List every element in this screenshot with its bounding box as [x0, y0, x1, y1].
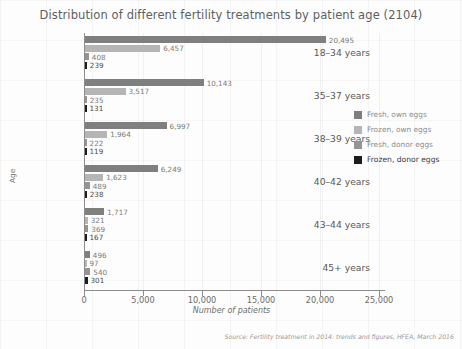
- legend-item[interactable]: Fresh, own eggs: [354, 108, 458, 121]
- legend-swatch: [354, 126, 362, 134]
- bar-row: 239: [84, 62, 379, 69]
- legend-swatch: [354, 141, 362, 149]
- bar-value-label: 238: [87, 190, 104, 199]
- bar-row: 167: [84, 234, 379, 241]
- bar-value-label: 131: [87, 104, 104, 113]
- bar[interactable]: [84, 36, 326, 43]
- category-label: 43–44 years: [314, 219, 370, 230]
- x-tick-label: 25,000: [365, 295, 394, 305]
- source-note: Source: Fertility treatment in 2014: tre…: [225, 333, 454, 340]
- x-tick-label: 20,000: [306, 295, 335, 305]
- legend-label: Fresh, own eggs: [367, 110, 427, 119]
- bar[interactable]: [84, 45, 160, 52]
- x-axis-line: [84, 290, 385, 291]
- x-tick-label: 10,000: [188, 295, 217, 305]
- bar-row: 131: [84, 105, 379, 112]
- bar-value-label: 1,717: [104, 207, 128, 216]
- bar-value-label: 3,517: [126, 87, 150, 96]
- bar-row: 6,249: [84, 165, 379, 172]
- legend-item[interactable]: Frozen, own eggs: [354, 123, 458, 136]
- legend-label: Frozen, own eggs: [367, 125, 431, 134]
- bar-value-label: 6,249: [158, 164, 182, 173]
- bar-row: 238: [84, 191, 379, 198]
- bar[interactable]: [84, 122, 167, 129]
- bar-row: 301: [84, 277, 379, 284]
- legend-item[interactable]: Fresh, donor eggs: [354, 138, 458, 151]
- x-tick-label: 15,000: [247, 295, 276, 305]
- x-axis-title: Number of patients: [84, 306, 379, 315]
- chart-page: Distribution of different fertility trea…: [0, 0, 462, 349]
- legend-label: Frozen, donor eggs: [367, 155, 439, 164]
- category-label: 35–37 years: [314, 90, 370, 101]
- plot-area: 20,4956,45740823910,1433,5172351316,9971…: [84, 33, 379, 291]
- bar-value-label: 1,964: [107, 130, 131, 139]
- bar-value-label: 6,457: [160, 44, 184, 53]
- bar-row: 496: [84, 251, 379, 258]
- legend-swatch: [354, 111, 362, 119]
- bar-row: 20,495: [84, 36, 379, 43]
- bar[interactable]: [84, 165, 158, 172]
- bar[interactable]: [84, 88, 126, 95]
- bar-row: 10,143: [84, 79, 379, 86]
- bar[interactable]: [84, 79, 204, 86]
- bar-value-label: 20,495: [326, 35, 354, 44]
- y-axis-title: Age: [8, 169, 17, 183]
- bar-value-label: 239: [87, 61, 104, 70]
- category-label: 40–42 years: [314, 176, 370, 187]
- bar-value-label: 119: [87, 147, 104, 156]
- bar-row: 119: [84, 148, 379, 155]
- legend-item[interactable]: Frozen, donor eggs: [354, 153, 458, 166]
- bar[interactable]: [84, 131, 107, 138]
- x-tick-label: 0: [81, 295, 86, 305]
- category-label: 45+ years: [322, 262, 370, 273]
- bar-value-label: 301: [88, 276, 105, 285]
- category-label: 18–34 years: [314, 47, 370, 58]
- bar[interactable]: [84, 208, 104, 215]
- bar-value-label: 6,997: [167, 121, 191, 130]
- y-axis-line: [84, 33, 85, 291]
- bar[interactable]: [84, 174, 103, 181]
- legend: Fresh, own eggsFrozen, own eggsFresh, do…: [354, 108, 458, 168]
- bar-value-label: 167: [87, 233, 104, 242]
- bar-row: 6,997: [84, 122, 379, 129]
- x-tick-label: 5,000: [131, 295, 154, 305]
- bar-value-label: 10,143: [204, 78, 232, 87]
- chart-title: Distribution of different fertility trea…: [0, 8, 462, 22]
- legend-swatch: [354, 156, 362, 164]
- bar-row: 1,717: [84, 208, 379, 215]
- legend-label: Fresh, donor eggs: [367, 140, 433, 149]
